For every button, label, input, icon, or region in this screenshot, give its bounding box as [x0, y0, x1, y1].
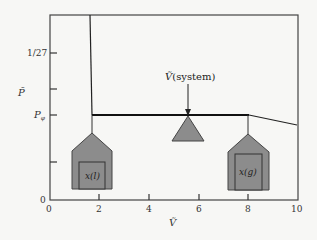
system-annotation: Ṽ(system) — [165, 71, 215, 82]
x-axis-ticks — [99, 194, 248, 200]
liquid-weight-house: x(l) — [72, 133, 112, 189]
isotherm-curve — [90, 15, 297, 125]
fulcrum-triangle — [172, 116, 204, 141]
y-tick-p-phi: Pφ — [33, 109, 46, 122]
x-tick-6: 6 — [196, 204, 202, 214]
x-tick-2: 2 — [96, 204, 102, 214]
liquid-label: x(l) — [85, 171, 100, 181]
x-tick-10: 10 — [291, 204, 303, 214]
lever-rule-diagram: 1/27 Pφ 0 P̃ 0 2 4 6 8 10 Ṽ Ṽ(system) x(… — [0, 0, 317, 240]
gas-weight-house: x(g) — [228, 134, 269, 190]
y-axis-label: P̃ — [17, 87, 25, 98]
x-axis-label: Ṽ — [169, 217, 178, 228]
x-tick-4: 4 — [146, 204, 152, 214]
x-tick-0: 0 — [46, 204, 52, 214]
gas-label: x(g) — [239, 167, 257, 177]
y-axis-ticks — [50, 53, 57, 162]
x-tick-8: 8 — [245, 204, 251, 214]
y-tick-1-27: 1/27 — [27, 48, 47, 58]
